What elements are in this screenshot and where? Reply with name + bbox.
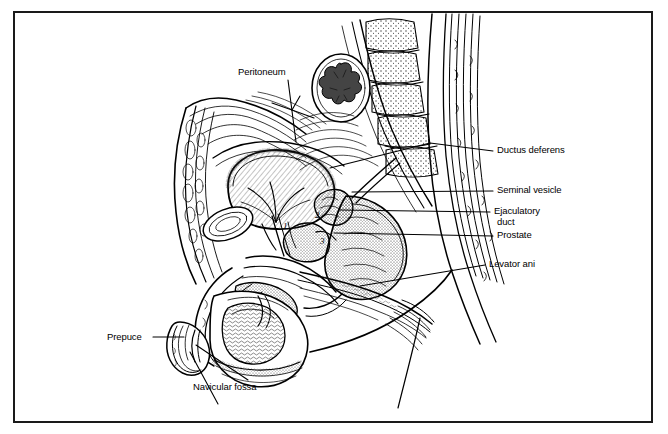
callout-number-3: 3 xyxy=(320,236,325,246)
label-prepuce: Prepuce xyxy=(107,331,142,342)
label-levator-ani: Levator ani xyxy=(489,258,535,269)
label-navicular-fossa: Navicular fossa xyxy=(193,381,256,392)
callout-number-2: 2 xyxy=(315,210,320,220)
leader-seminal-vesicle xyxy=(352,191,493,192)
label-peritoneum: Peritoneum xyxy=(238,66,286,77)
label-prostate: Prostate xyxy=(497,229,532,240)
anatomy-artwork xyxy=(0,0,668,434)
label-seminal-vesicle: Seminal vesicle xyxy=(497,184,562,195)
label-ductus-deferens: Ductus deferens xyxy=(497,144,565,155)
label-ejaculatory-duct-line2: duct xyxy=(497,216,515,227)
label-ejaculatory-duct: Ejaculatory xyxy=(494,205,540,216)
glans-prepuce xyxy=(167,322,210,375)
callout-number-1: 1 xyxy=(283,221,288,231)
spinal-cord xyxy=(312,54,370,122)
anatomy-figure: Peritoneum Ductus deferens Seminal vesic… xyxy=(0,0,668,434)
